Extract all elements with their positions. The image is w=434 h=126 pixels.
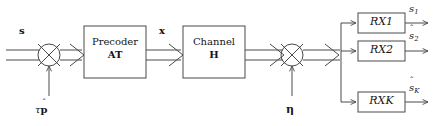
- block-precoder-line2: AT: [84, 49, 146, 60]
- label-pilot-term: τpˆ: [35, 104, 48, 115]
- block-precoder-line1: Precoder: [84, 36, 146, 47]
- rx1-subscript: 1: [386, 15, 393, 28]
- pilot-hat-accent: ˆ: [42, 99, 46, 108]
- label-estimate-1: sˆ1: [409, 3, 418, 16]
- rxk-subscript: K: [385, 94, 393, 107]
- block-channel-line1: Channel: [183, 36, 245, 47]
- block-rxk-text: RXK: [358, 95, 405, 107]
- block-rx2-text: RX2: [358, 44, 405, 56]
- rx1-label: RX: [370, 15, 386, 28]
- block-precoder-text: Precoder AT: [84, 36, 146, 60]
- input-signal-symbol: s: [19, 25, 25, 36]
- rxk-label: RX: [369, 94, 385, 107]
- block-channel-line2: H: [183, 49, 245, 60]
- label-input-signal: s: [19, 25, 25, 36]
- estimate-k-hat-accent: ˆ: [409, 77, 413, 86]
- estimate-1-hat-accent: ˆ: [409, 0, 413, 7]
- label-precoded-signal: x: [159, 25, 165, 36]
- wire-sum-left-to-precoder: [60, 44, 84, 66]
- estimate-1-subscript: 1: [414, 8, 418, 16]
- block-channel-text: Channel H: [183, 36, 245, 60]
- estimate-2-hat-accent: ˆ: [409, 25, 413, 34]
- rx2-subscript: 2: [386, 43, 393, 56]
- label-estimate-k: sˆK: [409, 82, 419, 95]
- label-noise: η: [286, 103, 294, 116]
- wire-channel-to-sum-right: [245, 44, 284, 66]
- block-diagram-figure: Precoder AT Channel H RX1 RX2 RXK s τpˆ …: [0, 0, 434, 126]
- precoded-signal-symbol: x: [159, 25, 165, 36]
- wire-sum-right-to-split: [303, 44, 340, 66]
- block-rx1-text: RX1: [358, 16, 405, 28]
- estimate-k-subscript: K: [414, 87, 419, 95]
- rx2-label: RX: [370, 43, 386, 56]
- wire-precoder-to-channel: [146, 44, 183, 66]
- precoder-matrix-subscript: T: [115, 49, 122, 60]
- noise-symbol: η: [286, 103, 294, 116]
- wire-s-to-sum-left: [6, 50, 40, 60]
- label-estimate-2: sˆ2: [409, 30, 418, 43]
- precoder-matrix-symbol: A: [108, 49, 115, 60]
- channel-matrix-symbol: H: [209, 49, 218, 60]
- estimate-2-subscript: 2: [414, 35, 418, 43]
- sum-junction-left: [38, 44, 60, 66]
